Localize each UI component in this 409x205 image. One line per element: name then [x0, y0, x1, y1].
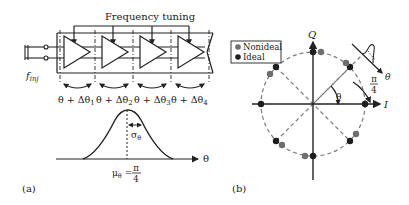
pi4-den: 4	[371, 85, 376, 95]
ideal-point-90	[310, 49, 316, 55]
ideal-point-180	[258, 101, 264, 107]
frequency-tuning-bus	[74, 26, 189, 44]
stage-phase-3: θ + Δθ3	[134, 94, 171, 107]
ideal-point-0	[362, 101, 368, 107]
stage-phase-4: θ + Δθ4	[171, 94, 208, 107]
mean-fraction-den: 4	[133, 174, 138, 184]
phase-distribution-plot: θ σθ μθ = π 4	[56, 110, 209, 184]
sigma-label: σθ	[131, 130, 141, 142]
injection-input	[25, 45, 48, 60]
finj-label: finj	[25, 70, 39, 83]
panel-a-label: (a)	[22, 183, 36, 194]
pi4-num: π	[371, 74, 377, 84]
legend-nonideal-label: Nonideal	[243, 42, 282, 52]
inset-distribution	[352, 44, 382, 73]
legend-ideal-swatch	[235, 54, 241, 60]
amplifier-stages	[64, 36, 204, 68]
pi-over-4-arc	[353, 82, 370, 102]
panel-a-ring-oscillator: Frequency tuning	[25, 11, 213, 107]
panel-b-label: (b)	[232, 183, 246, 194]
figure: Frequency tuning	[0, 0, 409, 205]
theta-label: θ	[336, 92, 341, 102]
panel-b-constellation: I Q θ π 4 θ	[231, 29, 391, 180]
ideal-point-135	[273, 64, 279, 70]
amplifier-1-icon	[64, 36, 90, 68]
ideal-point-270	[310, 153, 316, 159]
legend-nonideal-swatch	[235, 44, 241, 50]
inset-theta-label: θ	[385, 72, 391, 82]
ideal-point-225	[273, 138, 279, 144]
phase-shift-arrows	[64, 84, 204, 88]
stage-phase-1: θ + Δθ1	[58, 94, 95, 107]
amplifier-2-icon	[102, 36, 128, 68]
stage-phase-labels: θ + Δθ1 θ + Δθ2 θ + Δθ3 θ + Δθ4	[58, 94, 208, 107]
mean-fraction-num: π	[133, 163, 139, 173]
ideal-point-315	[347, 138, 353, 144]
stage-phase-2: θ + Δθ2	[96, 94, 133, 107]
mean-label: μθ =	[112, 168, 132, 180]
legend-ideal-label: Ideal	[243, 52, 265, 62]
legend: Nonideal Ideal	[231, 41, 282, 63]
theta-axis-label: θ	[203, 153, 209, 164]
amplifier-4-icon	[178, 36, 204, 68]
gaussian-curve	[83, 110, 173, 159]
q-axis-label: Q	[308, 29, 316, 40]
i-axis-label: I	[383, 99, 389, 110]
frequency-tuning-label: Frequency tuning	[105, 11, 196, 22]
amplifier-3-icon	[140, 36, 166, 68]
